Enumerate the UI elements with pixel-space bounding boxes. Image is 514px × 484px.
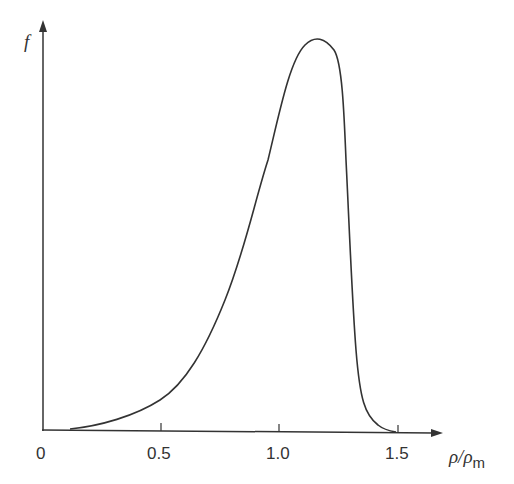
x-axis-arrow-icon xyxy=(431,429,443,437)
x-axis-label: ρ/ρm xyxy=(448,446,485,471)
distribution-curve xyxy=(70,39,396,432)
density-distribution-plot: f 0 0.5 1.0 1.5 ρ/ρm xyxy=(0,0,514,484)
x-tick-label: 1.5 xyxy=(385,444,409,463)
x-tick-label: 1.0 xyxy=(266,444,290,463)
x-tick-label: 0.5 xyxy=(147,444,171,463)
y-axis-arrow-icon xyxy=(39,20,47,32)
chart: f 0 0.5 1.0 1.5 ρ/ρm xyxy=(0,0,514,484)
x-tick-label: 0 xyxy=(36,444,45,463)
x-axis xyxy=(42,430,434,433)
y-axis-label: f xyxy=(24,31,32,52)
